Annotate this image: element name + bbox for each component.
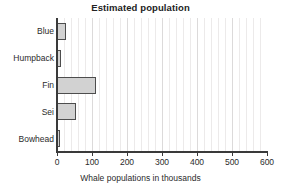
- y-axis-label-humpback: Humpback: [13, 53, 54, 63]
- x-tick-label: 400: [190, 157, 204, 167]
- x-tick-label: 100: [85, 157, 99, 167]
- x-tick-label: 0: [55, 157, 60, 167]
- y-axis-label-sei: Sei: [42, 107, 54, 117]
- y-axis-label-bowhead: Bowhead: [19, 134, 54, 144]
- x-tick-mark: [197, 152, 198, 156]
- x-tick-mark: [232, 152, 233, 156]
- x-tick-label: 500: [225, 157, 239, 167]
- y-axis-label-fin: Fin: [42, 80, 54, 90]
- x-tick-mark: [127, 152, 128, 156]
- bar-chart: Estimated population 0100200300400500600…: [0, 0, 281, 193]
- x-tick-mark: [162, 152, 163, 156]
- x-tick-mark: [267, 152, 268, 156]
- y-axis-category-labels: BlueHumpbackFinSeiBowhead: [0, 18, 54, 152]
- x-tick-label: 300: [155, 157, 169, 167]
- x-tick-label: 200: [120, 157, 134, 167]
- x-axis-label: Whale populations in thousands: [0, 173, 281, 183]
- x-tick-mark: [92, 152, 93, 156]
- y-axis-label-blue: Blue: [37, 26, 54, 36]
- x-tick-mark: [57, 152, 58, 156]
- x-tick-label: 600: [260, 157, 274, 167]
